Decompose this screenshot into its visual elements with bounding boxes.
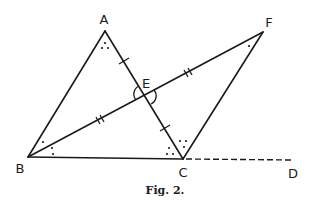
angle-dot-c-interior: [172, 153, 174, 155]
angle-arc-e-right: [151, 90, 156, 104]
point-label-d: D: [288, 167, 298, 180]
segment-bc: [28, 157, 183, 159]
point-label-f: F: [265, 16, 272, 29]
point-label-c: C: [178, 166, 187, 179]
geometry-figure: A B C D E F Fig. 2.: [0, 0, 310, 208]
angle-dot-a: [107, 47, 109, 49]
segment-cd-extension: [186, 159, 293, 160]
angle-dot-c-interior: [168, 147, 170, 149]
angle-dot-c-exterior: [185, 140, 187, 142]
angle-dot-b-lower: [52, 153, 54, 155]
figure-diagram: [0, 0, 310, 208]
angle-dot-a: [101, 47, 103, 49]
angle-dot-a: [104, 42, 106, 44]
segment-bf: [28, 32, 263, 157]
figure-caption: Fig. 2.: [146, 185, 185, 196]
angle-dot-b-upper: [42, 141, 44, 143]
point-label-a: A: [100, 13, 109, 26]
segment-cf: [183, 32, 263, 159]
angle-dot-c-exterior: [179, 140, 181, 142]
point-label-b: B: [16, 162, 25, 175]
angle-dot-c-interior: [166, 153, 168, 155]
segment-ab: [28, 31, 105, 157]
angle-dot-b-lower: [51, 147, 53, 149]
angle-dot-c-exterior: [183, 146, 185, 148]
angle-dot-f: [248, 45, 250, 47]
point-label-e: E: [142, 77, 150, 90]
